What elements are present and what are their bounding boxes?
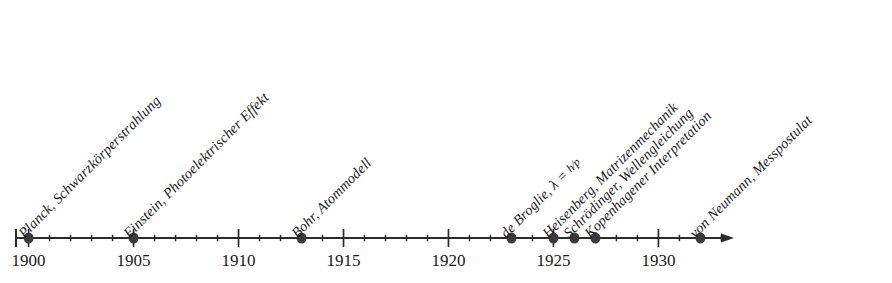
event-marker-dot[interactable] [506,232,516,243]
axis-arrowhead [721,233,734,242]
year-tick-label: 1910 [222,252,256,269]
event-marker-dot[interactable] [24,232,34,243]
year-tick-label: 1915 [327,252,361,269]
year-tick-label: 1905 [117,252,151,269]
event-marker-dot[interactable] [297,232,307,243]
event-marker-dot[interactable] [590,232,600,243]
event-marker-dot[interactable] [129,232,139,243]
year-tick-label: 1930 [641,252,675,269]
timeline-axis-graphic [0,0,892,283]
event-marker-dot[interactable] [569,232,579,243]
year-tick-label: 1900 [12,252,46,269]
event-marker-dot[interactable] [548,232,558,243]
year-tick-label: 1925 [536,252,570,269]
event-marker-dot[interactable] [695,232,705,243]
timeline-figure: Planck, SchwarzkörperstrahlungEinstein, … [0,0,892,283]
year-tick-label: 1920 [431,252,465,269]
